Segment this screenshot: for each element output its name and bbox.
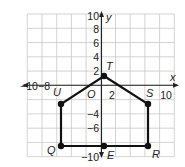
vertex-label-e: E xyxy=(107,149,115,161)
y-axis-down-arrow-icon xyxy=(99,152,104,158)
x-axis-right-arrow-icon xyxy=(173,83,179,88)
origin-label: O xyxy=(87,88,96,100)
y-tick-label: 10 xyxy=(87,10,99,22)
vertex-point-t xyxy=(101,73,107,79)
x-tick-label: −8 xyxy=(38,80,50,92)
y-tick-label: −4 xyxy=(87,108,99,120)
y-tick-label: −10 xyxy=(81,151,99,163)
x-tick-label: 10 xyxy=(160,89,172,101)
vertex-label-q: Q xyxy=(47,144,56,156)
y-tick-label: 4 xyxy=(93,51,99,63)
x-tick-label: −10 xyxy=(20,80,38,92)
y-tick-label: −6 xyxy=(87,122,99,134)
coordinate-plane: −10−8210108642−4−6−10 y x O TSREQU xyxy=(0,0,185,167)
coordinate-plane-figure: −10−8210108642−4−6−10 y x O TSREQU xyxy=(0,0,185,167)
x-axis-label: x xyxy=(169,71,176,83)
vertex-label-r: R xyxy=(152,148,160,160)
vertex-label-s: S xyxy=(146,87,154,99)
vertex-point-s xyxy=(145,101,151,107)
y-axis-label: y xyxy=(105,11,113,23)
vertex-label-t: T xyxy=(106,60,114,72)
y-tick-label: 2 xyxy=(93,65,99,77)
y-tick-label: 8 xyxy=(93,23,99,35)
vertex-point-u xyxy=(58,101,64,107)
polygon-TSREQU xyxy=(61,76,148,146)
vertex-point-q xyxy=(58,143,64,149)
x-tick-label: 2 xyxy=(109,89,115,101)
vertex-point-r xyxy=(145,143,151,149)
vertex-label-u: U xyxy=(53,86,61,98)
y-tick-label: 6 xyxy=(93,37,99,49)
